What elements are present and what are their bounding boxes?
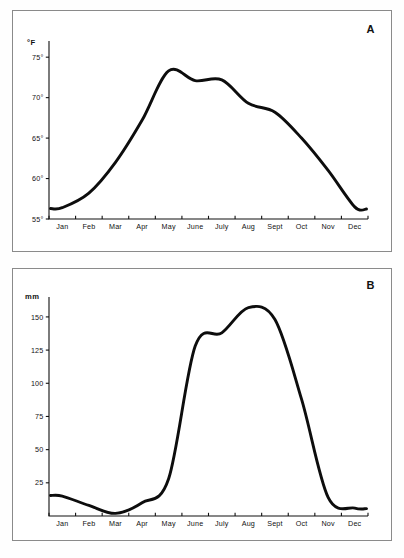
svg-text:Mar: Mar (109, 222, 122, 231)
svg-text:July: July (215, 519, 229, 528)
chart-panel-b: B mm150125100755025JanFebMarAprMayJuneJu… (12, 268, 392, 541)
svg-text:70°: 70° (32, 93, 43, 102)
svg-text:Nov: Nov (321, 519, 335, 528)
svg-text:May: May (162, 222, 176, 231)
svg-text:Feb: Feb (82, 519, 95, 528)
svg-text:July: July (215, 222, 229, 231)
svg-text:100: 100 (31, 379, 44, 388)
svg-text:Oct: Oct (296, 519, 308, 528)
svg-text:50: 50 (35, 445, 43, 454)
svg-text:May: May (162, 519, 176, 528)
svg-text:June: June (187, 519, 203, 528)
svg-text:Dec: Dec (348, 222, 362, 231)
svg-text:Jan: Jan (56, 222, 68, 231)
svg-text:55°: 55° (32, 215, 43, 224)
svg-text:Dec: Dec (348, 519, 362, 528)
svg-text:Feb: Feb (82, 222, 95, 231)
svg-text:Mar: Mar (109, 519, 122, 528)
svg-text:75: 75 (35, 412, 43, 421)
svg-text:Sept: Sept (267, 222, 283, 231)
svg-text:Sept: Sept (267, 519, 283, 528)
svg-text:Oct: Oct (296, 222, 308, 231)
svg-text:Apr: Apr (136, 222, 148, 231)
svg-text:65°: 65° (32, 134, 43, 143)
svg-text:125: 125 (31, 346, 44, 355)
svg-text:June: June (187, 222, 203, 231)
precipitation-line-chart: mm150125100755025JanFebMarAprMayJuneJuly… (13, 269, 393, 542)
svg-text:Aug: Aug (242, 519, 255, 528)
svg-text:Apr: Apr (136, 519, 148, 528)
svg-text:60°: 60° (32, 174, 43, 183)
temperature-line-chart: °F75°70°65°60°55°JanFebMarAprMayJuneJuly… (13, 11, 393, 253)
svg-text:mm: mm (25, 292, 39, 301)
svg-text:°F: °F (27, 38, 35, 47)
figure-page: A °F75°70°65°60°55°JanFebMarAprMayJuneJu… (0, 0, 404, 558)
svg-text:25: 25 (35, 478, 43, 487)
chart-panel-a: A °F75°70°65°60°55°JanFebMarAprMayJuneJu… (12, 10, 392, 252)
svg-text:Jan: Jan (56, 519, 68, 528)
svg-text:75°: 75° (32, 53, 43, 62)
svg-text:Nov: Nov (321, 222, 335, 231)
svg-text:Aug: Aug (242, 222, 255, 231)
svg-text:150: 150 (31, 313, 44, 322)
